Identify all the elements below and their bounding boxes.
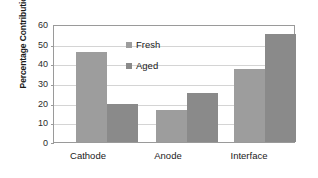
bar-fresh-anode	[156, 110, 187, 142]
legend-item-aged: Aged	[126, 58, 190, 73]
y-tick-label: 40	[26, 60, 48, 69]
y-tickmark	[51, 85, 54, 86]
y-tickmark	[51, 143, 54, 144]
bar-aged-cathode	[107, 104, 138, 142]
bar-aged-interface	[265, 34, 296, 142]
legend: Fresh Aged	[126, 37, 190, 79]
y-tick-label: 60	[26, 21, 48, 30]
legend-swatch-icon	[126, 63, 132, 69]
y-tickmark	[51, 46, 54, 47]
legend-swatch-icon	[126, 42, 132, 48]
y-tickmark	[51, 124, 54, 125]
y-tick-label: 20	[26, 100, 48, 109]
bar-chart-figure: Percentage Contribution 60 50 40 30 20 1…	[0, 0, 318, 178]
legend-label: Fresh	[136, 40, 160, 50]
x-tick-label-interface: Interface	[214, 150, 284, 161]
y-tickmark	[51, 65, 54, 66]
legend-item-fresh: Fresh	[126, 37, 190, 52]
y-tick-label: 10	[26, 119, 48, 128]
bar-aged-anode	[187, 93, 218, 142]
y-tickmark	[51, 105, 54, 106]
bar-fresh-cathode	[76, 52, 107, 142]
y-tick-label: 30	[26, 80, 48, 89]
x-tick-label-anode: Anode	[136, 150, 200, 161]
y-tick-label: 0	[26, 139, 48, 148]
y-axis-tick-labels: 60 50 40 30 20 10 0	[26, 0, 48, 178]
legend-label: Aged	[136, 61, 158, 71]
y-tick-label: 50	[26, 41, 48, 50]
bar-fresh-interface	[234, 69, 265, 142]
x-tick-label-cathode: Cathode	[56, 150, 120, 161]
